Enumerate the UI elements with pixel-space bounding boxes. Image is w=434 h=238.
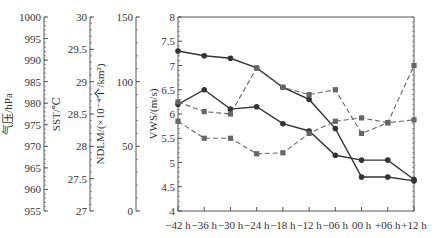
tick-label: 28.5 [68,108,88,120]
tick-label: 29 [76,76,88,88]
data-point [254,65,259,70]
tick-label: 6 [170,108,176,120]
x-tick-label: +12 h [401,219,427,231]
tick-label: 985 [25,76,42,88]
tick-label: 5.5 [161,132,175,144]
data-point [411,177,417,183]
data-point [254,104,260,110]
data-point [307,92,312,97]
data-point [385,120,390,125]
x-tick-label: −42 h [165,219,191,231]
axis-title-sst: SST/℃ [50,97,62,131]
series-line [178,66,414,134]
data-point [202,136,207,141]
multi-axis-line-chart: 1000995990985980975970965960955气压/hPa302… [0,0,434,238]
tick-label: 50 [122,140,134,152]
x-tick-label: −30 h [218,219,244,231]
x-tick-label: +06 h [375,219,401,231]
tick-label: 4 [170,205,176,217]
tick-label: 5 [170,157,176,169]
data-point [306,97,312,103]
data-point [359,115,364,120]
axis-title-vws: VWS/(m/s) [147,88,160,139]
data-point [280,85,285,90]
data-point [228,111,233,116]
data-point [307,131,312,136]
tick-label: 960 [25,183,42,195]
tick-label: 30 [76,11,88,23]
data-point [280,150,285,155]
tick-label: 965 [25,162,42,174]
tick-label: 29.5 [68,43,88,55]
data-point [228,136,233,141]
series-a-solid [175,48,417,184]
data-point [333,126,339,132]
series-line [178,118,414,154]
series-line [178,90,414,180]
data-point [411,117,416,122]
tick-label: 995 [25,33,42,45]
data-point [333,119,338,124]
tick-label: 980 [25,97,42,109]
data-point [385,174,391,180]
data-point [201,53,207,59]
tick-label: 6.5 [161,84,175,96]
data-point [228,55,234,61]
data-point [202,109,207,114]
series-line [178,51,414,181]
x-tick-label: −18 h [270,219,296,231]
tick-label: 7.5 [161,35,175,47]
chart-canvas: 1000995990985980975970965960955气压/hPa302… [0,0,434,238]
data-point [280,121,286,127]
data-point [359,174,365,180]
data-point [201,87,207,93]
plot-frame [178,17,414,211]
y-axis-pressure: 1000995990985980975970965960955气压/hPa [1,11,48,217]
x-tick-label: −06 h [323,219,349,231]
data-point [175,119,180,124]
data-point [333,152,339,158]
tick-label: 0 [128,205,134,217]
x-tick-label: −36 h [191,219,217,231]
data-point [175,99,180,104]
data-point [175,48,181,54]
data-point [385,157,391,163]
x-tick-label: 00 h [352,219,372,231]
tick-label: 970 [25,140,42,152]
data-point [359,131,364,136]
axis-title-pressure: 气压/hPa [1,93,14,135]
series-d-dashed [175,115,416,156]
tick-label: 975 [25,119,42,131]
data-point [333,87,338,92]
tick-label: 28 [76,140,88,152]
data-point [254,151,259,156]
x-tick-label: −12 h [296,219,322,231]
tick-label: 990 [25,54,42,66]
x-tick-label: −24 h [244,219,270,231]
tick-label: 4.5 [161,181,175,193]
tick-label: 150 [117,11,134,23]
y-axis-vws: 87.576.565.554.54VWS/(m/s) [147,11,182,217]
series-b-solid [175,87,417,182]
tick-label: 7 [170,60,176,72]
data-point [411,63,416,68]
axis-title-ndlm: NDLM/(×10⁻⁴个/km²) [94,63,107,164]
data-point [359,157,365,163]
series-c-dashed [175,63,416,136]
tick-label: 1000 [19,11,42,23]
tick-label: 955 [25,205,42,217]
tick-label: 27 [76,205,88,217]
y-axis-ndlm: 150100500NDLM/(×10⁻⁴个/km²) [94,11,140,217]
y-axis-sst: 3029.52928.52827.527SST/℃ [50,11,94,217]
tick-label: 100 [117,76,134,88]
tick-label: 8 [170,11,176,23]
tick-label: 27.5 [68,173,88,185]
